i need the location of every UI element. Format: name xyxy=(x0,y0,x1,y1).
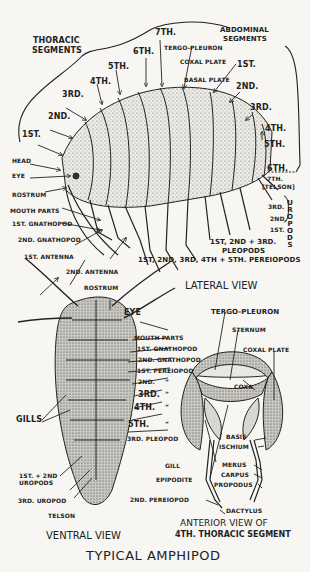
label-dactylus: DACTYLUS xyxy=(226,507,262,514)
label-uropod-3-ventral: 3RD. UROPOD xyxy=(18,497,66,504)
label-pereiopod-1-ventral: 1ST. PEREIOPOD xyxy=(137,367,193,374)
label-head: HEAD xyxy=(12,157,31,164)
label-pereiopod-3-ventral: 3RD. xyxy=(138,390,160,399)
abdominal-seg-7: 7TH. xyxy=(267,175,283,182)
ditto-5: ” xyxy=(165,420,169,427)
label-tergo-pleuron-anterior: TERGO-PLEURON xyxy=(211,308,279,316)
label-tergo-pleuron-lateral: TERGO-PLEURON xyxy=(164,44,223,51)
label-antenna-2: 2ND. ANTENNA xyxy=(66,268,118,275)
abdominal-seg-6: 6TH. xyxy=(267,164,288,173)
label-epipodite: EPIPODITE xyxy=(156,476,193,483)
thoracic-seg-1: 1ST. xyxy=(22,130,41,139)
uropod-2-lateral: 2ND. xyxy=(270,215,287,222)
label-gill-anterior: GILL xyxy=(165,462,180,469)
thoracic-seg-7: 7TH. xyxy=(155,28,176,37)
diagram-title: TYPICAL AMPHIPOD xyxy=(86,548,221,563)
thoracic-seg-4: 4TH. xyxy=(90,77,111,86)
caption-ventral-view: VENTRAL VIEW xyxy=(46,530,121,541)
label-gnathopod-1-lateral: 1ST. GNATHOPOD xyxy=(12,220,72,227)
label-coxa: COXA xyxy=(234,383,253,390)
uropod-3-lateral: 3RD. xyxy=(268,203,284,210)
thoracic-seg-2: 2ND. xyxy=(48,112,70,121)
label-antenna-1: 1ST. ANTENNA xyxy=(24,253,74,260)
label-gnathopod-2-lateral: 2ND. GNATHOPOD xyxy=(18,236,81,243)
thoracic-header-line1: THORACIC xyxy=(33,36,80,45)
label-rostrum-lateral: ROSTRUM xyxy=(12,191,46,198)
label-pleopods-line2: PLEOPODS xyxy=(222,247,265,255)
ditto-2: ” xyxy=(165,378,169,385)
label-uropods-12-line2: UROPODS xyxy=(19,479,53,486)
amphipod-diagram: THORACIC SEGMENTS 1ST. 2ND. 3RD. 4TH. 5T… xyxy=(0,0,310,572)
uropod-1-lateral: 1ST. xyxy=(270,226,284,233)
label-gnathopod-2-ventral: 2ND. GNATHOPOD xyxy=(138,356,201,363)
caption-lateral-view: LATERAL VIEW xyxy=(185,280,257,291)
label-telson-lateral: [TELSON] xyxy=(262,183,295,190)
label-basis: BASIS xyxy=(226,433,247,440)
label-eye-lateral: EYE xyxy=(12,172,25,179)
label-eye-ventral: EYE xyxy=(124,308,141,317)
label-pleopod-3-ventral: 3RD. PLEOPOD xyxy=(127,435,178,442)
label-propodus: PROPODUS xyxy=(214,481,253,488)
ditto-4: ” xyxy=(165,403,169,410)
diagram-artwork xyxy=(0,0,310,572)
thoracic-seg-3: 3RD. xyxy=(62,90,84,99)
label-mouth-parts-lateral: MOUTH PARTS xyxy=(10,207,60,214)
abdominal-header-line1: ABDOMINAL xyxy=(220,26,269,34)
label-pereiopod-2-anterior: 2ND. PEREIOPOD xyxy=(130,496,189,503)
thoracic-header-line2: SEGMENTS xyxy=(32,46,82,55)
ventral-body xyxy=(55,297,137,505)
label-ischium: ISCHIUM xyxy=(219,443,249,450)
label-pleopods-line1: 1ST, 2ND + 3RD. xyxy=(210,238,276,246)
label-pereiopods-lateral: 1ST, 2ND, 3RD, 4TH + 5TH. PEREIOPODS xyxy=(138,256,301,264)
label-mouth-parts-ventral: MOUTH PARTS xyxy=(134,334,184,341)
label-coxal-plate-anterior: COXAL PLATE xyxy=(243,346,289,353)
caption-anterior-view-line1: ANTERIOR VIEW OF xyxy=(180,518,268,528)
label-rostrum-ventral: ROSTRUM xyxy=(84,284,118,291)
label-merus: MERUS xyxy=(222,461,246,468)
abdominal-seg-5: 5TH. xyxy=(264,140,285,149)
label-gills-ventral: GILLS xyxy=(16,415,42,424)
caption-anterior-view-line2: 4TH. THORACIC SEGMENT xyxy=(175,530,291,539)
label-pereiopod-2-ventral: 2ND. xyxy=(138,378,155,385)
label-coxal-plate-lateral: COXAL PLATE xyxy=(180,58,226,65)
abdominal-seg-4: 4TH. xyxy=(265,124,286,133)
label-uropods-12-line1: 1ST. + 2ND xyxy=(19,472,57,479)
ditto-3: ” xyxy=(165,390,169,397)
label-uropods-vertical: UROPODS xyxy=(286,200,294,249)
abdominal-seg-2: 2ND. xyxy=(236,82,258,91)
label-pereiopod-4-ventral: 4TH. xyxy=(134,403,155,412)
label-gnathopod-1-ventral: 1ST. GNATHOPOD xyxy=(137,345,197,352)
label-sternum: STERNUM xyxy=(232,326,266,333)
thoracic-seg-5: 5TH. xyxy=(108,62,129,71)
label-carpus: CARPUS xyxy=(221,471,249,478)
label-basal-plate-lateral: BASAL PLATE xyxy=(184,76,230,83)
abdominal-seg-3: 3RD. xyxy=(250,103,272,112)
abdominal-seg-1: 1ST. xyxy=(237,60,256,69)
label-telson-ventral: TELSON xyxy=(48,512,75,519)
label-pereiopod-5-ventral: 5TH. xyxy=(128,420,149,429)
abdominal-header-line2: SEGMENTS xyxy=(223,35,267,43)
thoracic-seg-6: 6TH. xyxy=(133,47,154,56)
